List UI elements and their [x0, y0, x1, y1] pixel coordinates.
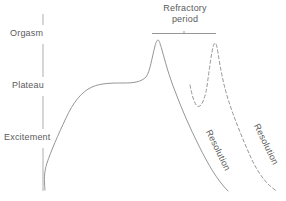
- refractory-period-bracket: [152, 31, 216, 34]
- response-curve-dashed: [190, 43, 277, 191]
- refractory-line-2: period: [152, 14, 218, 25]
- sexual-response-cycle-chart: Orgasm Plateau Excitement Refractory per…: [0, 0, 286, 201]
- response-curve-solid: [44, 40, 228, 191]
- annotation-refractory-period: Refractory period: [152, 3, 218, 25]
- y-axis-label-excitement: Excitement: [2, 132, 53, 142]
- y-axis-label-orgasm: Orgasm: [8, 28, 45, 38]
- y-axis-label-plateau: Plateau: [10, 80, 46, 90]
- refractory-line-1: Refractory: [152, 3, 218, 14]
